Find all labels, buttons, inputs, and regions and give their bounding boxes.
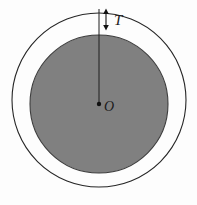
figure-container: T O [0,0,197,205]
annulus-diagram: T O [0,0,197,205]
center-label: O [104,99,114,114]
thickness-label: T [114,12,124,28]
arrow-head-down [103,25,109,31]
center-dot [97,102,101,106]
thickness-arrow [103,9,109,31]
arrow-head-up [103,9,109,15]
